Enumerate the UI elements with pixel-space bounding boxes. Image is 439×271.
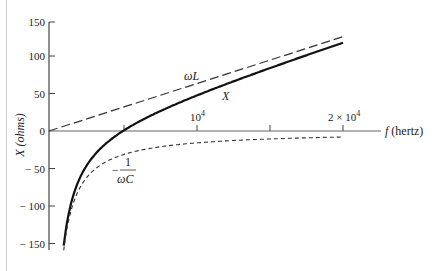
svg-text:1: 1 (125, 155, 131, 169)
y-tick-label-150: 150 (29, 16, 46, 28)
annotation-neg-inv-omega-c: − 1 ωC (112, 155, 136, 186)
y-tick-label-50: 50 (34, 88, 46, 100)
series-x-reactance-curve (64, 43, 343, 246)
y-tick-label-neg50: − 50 (25, 163, 45, 175)
x-ticks (124, 125, 343, 131)
y-tick-label-neg150: − 150 (20, 238, 46, 250)
x-tick-label-10e4: 104 (190, 109, 205, 123)
reactance-chart: 150 100 50 0 − 50 − 100 − 150 X (ohms) 1… (0, 0, 439, 271)
x-axis-title: f (hertz) (385, 124, 423, 138)
y-ticks (49, 22, 55, 244)
series-neg-inv-omega-c-curve (64, 137, 343, 250)
y-axis-title: X (ohms) (13, 113, 27, 158)
x-tick-label-2x10e4: 2 × 104 (328, 109, 360, 123)
y-tick-label-0: 0 (40, 125, 46, 137)
y-tick-label-100: 100 (29, 50, 46, 62)
annotation-omega-l: ωL (184, 69, 199, 83)
svg-text:ωC: ωC (117, 172, 134, 186)
annotation-x: X (221, 89, 230, 103)
y-tick-label-neg100: − 100 (20, 200, 46, 212)
